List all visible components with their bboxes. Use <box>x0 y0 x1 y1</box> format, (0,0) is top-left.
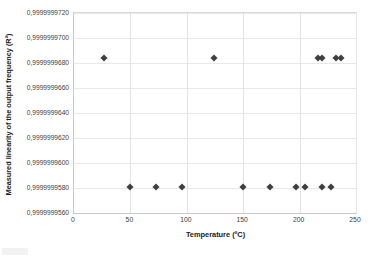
x-axis-tick-label: 200 <box>293 216 304 223</box>
data-point <box>319 183 326 190</box>
data-point <box>267 183 274 190</box>
data-point <box>101 54 108 61</box>
data-point <box>210 54 217 61</box>
x-axis-tick-label: 100 <box>180 216 191 223</box>
x-axis-tick-label: 0 <box>71 216 75 223</box>
data-point <box>240 183 247 190</box>
y-axis-tick-label: 0,9999999660 <box>17 84 69 91</box>
data-point <box>338 54 345 61</box>
x-axis-tick-labels: 050100150200250 <box>73 216 358 230</box>
x-gridline <box>300 13 301 213</box>
plot-area <box>73 12 357 214</box>
data-point <box>319 54 326 61</box>
page-artifact <box>2 248 28 255</box>
y-axis-tick-label: 0,9999999720 <box>17 9 69 16</box>
x-axis-tick-label: 50 <box>126 216 134 223</box>
y-axis-tick-label: 0,9999999640 <box>17 109 69 116</box>
y-gridline <box>74 188 356 189</box>
y-axis-tick-label: 0,9999999580 <box>17 184 69 191</box>
y-axis-tick-label: 0,9999999600 <box>17 159 69 166</box>
scatter-chart: Measured linearity of the output frequen… <box>0 0 371 259</box>
y-axis-tick-label: 0,9999999680 <box>17 59 69 66</box>
y-axis-tick-labels: 0,99999997200,99999997000,99999996800,99… <box>18 0 72 228</box>
data-point <box>127 183 134 190</box>
y-gridline <box>74 88 356 89</box>
y-gridline <box>74 38 356 39</box>
y-axis-title-text: Measured linearity of the output frequen… <box>5 33 14 195</box>
data-point <box>328 183 335 190</box>
x-axis-tick-label: 250 <box>349 216 360 223</box>
x-axis-tick-label: 150 <box>237 216 248 223</box>
y-gridline <box>74 113 356 114</box>
y-gridline <box>74 163 356 164</box>
data-point <box>179 183 186 190</box>
y-axis-tick-label: 0,9999999560 <box>17 209 69 216</box>
y-axis-tick-label: 0,9999999700 <box>17 34 69 41</box>
y-axis-title: Measured linearity of the output frequen… <box>0 0 18 228</box>
x-axis-title: Temperature (ºC) <box>73 230 358 239</box>
x-gridline <box>187 13 188 213</box>
y-gridline <box>74 13 356 14</box>
y-gridline <box>74 63 356 64</box>
y-axis-tick-label: 0,9999999620 <box>17 134 69 141</box>
y-gridline <box>74 138 356 139</box>
data-point <box>153 183 160 190</box>
data-point <box>302 183 309 190</box>
